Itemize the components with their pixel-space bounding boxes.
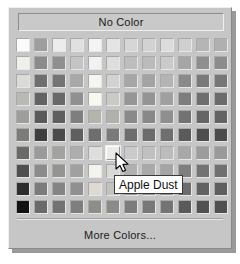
color-swatch[interactable] <box>214 200 228 214</box>
color-swatch[interactable] <box>52 182 66 196</box>
color-swatch[interactable] <box>52 56 66 70</box>
color-swatch[interactable] <box>52 92 66 106</box>
no-color-button[interactable]: No Color <box>18 13 224 31</box>
color-swatch[interactable] <box>214 146 228 160</box>
color-swatch[interactable] <box>34 56 48 70</box>
color-swatch[interactable] <box>52 146 66 160</box>
color-swatch[interactable] <box>16 92 30 106</box>
color-swatch[interactable] <box>142 74 156 88</box>
color-swatch[interactable] <box>196 74 210 88</box>
color-swatch[interactable] <box>106 110 120 124</box>
color-swatch[interactable] <box>34 38 48 52</box>
color-swatch[interactable] <box>214 110 228 124</box>
color-swatch[interactable] <box>214 182 228 196</box>
color-swatch[interactable] <box>16 182 30 196</box>
color-swatch[interactable] <box>88 38 102 52</box>
more-colors-button[interactable]: More Colors... <box>11 223 229 246</box>
color-swatch[interactable] <box>196 56 210 70</box>
color-swatch[interactable] <box>88 110 102 124</box>
color-swatch[interactable] <box>16 74 30 88</box>
color-swatch[interactable] <box>160 128 174 142</box>
color-swatch[interactable] <box>196 128 210 142</box>
color-swatch[interactable] <box>196 200 210 214</box>
color-swatch[interactable] <box>34 182 48 196</box>
color-swatch[interactable] <box>124 74 138 88</box>
color-swatch[interactable] <box>178 128 192 142</box>
color-swatch[interactable] <box>34 200 48 214</box>
color-swatch[interactable] <box>88 74 102 88</box>
color-swatch[interactable] <box>196 92 210 106</box>
color-swatch[interactable] <box>124 146 138 160</box>
color-swatch[interactable] <box>70 164 84 178</box>
color-swatch[interactable] <box>16 38 30 52</box>
color-swatch[interactable] <box>88 146 102 160</box>
color-swatch[interactable] <box>160 38 174 52</box>
color-swatch[interactable] <box>34 92 48 106</box>
color-swatch[interactable] <box>142 200 156 214</box>
color-swatch[interactable] <box>178 146 192 160</box>
color-swatch[interactable] <box>70 38 84 52</box>
color-swatch[interactable] <box>160 56 174 70</box>
color-swatch[interactable] <box>124 128 138 142</box>
color-swatch[interactable] <box>106 200 120 214</box>
color-swatch[interactable] <box>124 56 138 70</box>
color-swatch[interactable] <box>178 56 192 70</box>
color-swatch[interactable] <box>16 200 30 214</box>
color-swatch[interactable] <box>70 200 84 214</box>
color-swatch[interactable] <box>160 110 174 124</box>
color-swatch[interactable] <box>142 92 156 106</box>
color-swatch[interactable] <box>88 200 102 214</box>
color-swatch[interactable] <box>142 110 156 124</box>
color-swatch[interactable] <box>106 38 120 52</box>
color-swatch[interactable] <box>160 146 174 160</box>
color-swatch-hovered[interactable] <box>106 146 120 160</box>
color-swatch[interactable] <box>34 128 48 142</box>
color-swatch[interactable] <box>178 74 192 88</box>
color-swatch[interactable] <box>16 164 30 178</box>
color-swatch[interactable] <box>16 56 30 70</box>
color-swatch[interactable] <box>214 128 228 142</box>
color-swatch[interactable] <box>88 164 102 178</box>
color-swatch[interactable] <box>16 146 30 160</box>
color-swatch[interactable] <box>70 92 84 106</box>
color-swatch[interactable] <box>70 182 84 196</box>
color-swatch[interactable] <box>178 110 192 124</box>
color-swatch[interactable] <box>142 56 156 70</box>
color-swatch[interactable] <box>142 128 156 142</box>
color-swatch[interactable] <box>88 56 102 70</box>
color-swatch[interactable] <box>52 74 66 88</box>
color-swatch[interactable] <box>160 74 174 88</box>
color-swatch[interactable] <box>178 92 192 106</box>
color-swatch[interactable] <box>214 38 228 52</box>
color-swatch[interactable] <box>214 74 228 88</box>
color-swatch[interactable] <box>52 128 66 142</box>
color-swatch[interactable] <box>34 146 48 160</box>
color-swatch[interactable] <box>196 164 210 178</box>
color-swatch[interactable] <box>124 92 138 106</box>
color-swatch[interactable] <box>214 56 228 70</box>
color-swatch[interactable] <box>16 110 30 124</box>
color-swatch[interactable] <box>34 110 48 124</box>
color-swatch[interactable] <box>34 74 48 88</box>
color-swatch[interactable] <box>70 110 84 124</box>
color-swatch[interactable] <box>178 38 192 52</box>
color-swatch[interactable] <box>52 110 66 124</box>
color-swatch[interactable] <box>196 182 210 196</box>
color-swatch[interactable] <box>52 38 66 52</box>
color-swatch[interactable] <box>52 200 66 214</box>
color-swatch[interactable] <box>88 92 102 106</box>
color-swatch[interactable] <box>214 92 228 106</box>
color-swatch[interactable] <box>124 110 138 124</box>
color-swatch[interactable] <box>88 128 102 142</box>
color-swatch[interactable] <box>106 56 120 70</box>
color-swatch[interactable] <box>106 128 120 142</box>
color-swatch[interactable] <box>52 164 66 178</box>
color-swatch[interactable] <box>124 38 138 52</box>
color-swatch[interactable] <box>142 146 156 160</box>
color-swatch[interactable] <box>196 38 210 52</box>
color-swatch[interactable] <box>70 128 84 142</box>
color-swatch[interactable] <box>160 200 174 214</box>
color-swatch[interactable] <box>70 56 84 70</box>
color-swatch[interactable] <box>70 74 84 88</box>
color-swatch[interactable] <box>124 200 138 214</box>
